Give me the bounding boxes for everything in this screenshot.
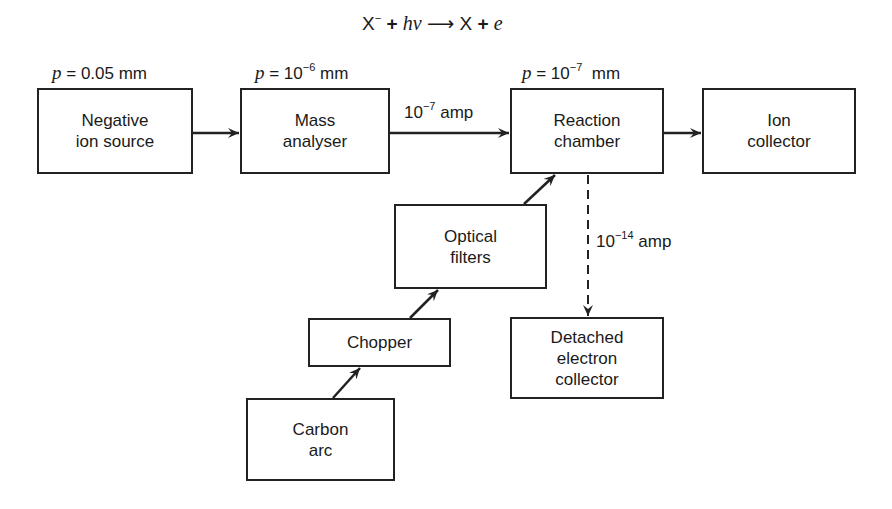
arrow-filters-to-chamber <box>524 175 555 204</box>
arrow-arc-to-chopper <box>333 368 360 398</box>
connector-arrows <box>0 0 892 509</box>
arrow-chopper-to-filters <box>410 290 438 318</box>
